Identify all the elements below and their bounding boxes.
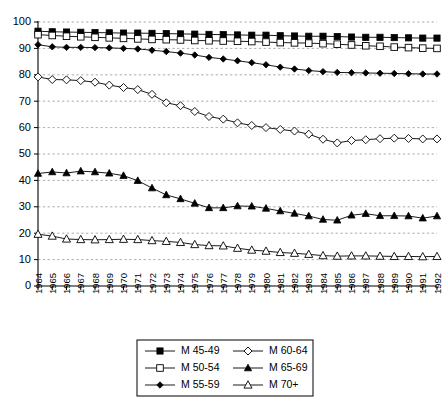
x-tick-label: 1976 <box>204 273 215 294</box>
data-point <box>263 62 269 68</box>
data-point <box>277 64 283 70</box>
data-point <box>63 44 69 50</box>
data-point <box>306 67 312 73</box>
x-tick-label: 1964 <box>33 273 44 294</box>
data-point <box>334 33 340 39</box>
data-point <box>106 35 113 42</box>
legend: M 45-49M 60-64M 50-54M 65-69M 55-59M 70+ <box>137 340 313 396</box>
data-point <box>244 381 252 388</box>
x-tick-label: 1967 <box>75 273 86 294</box>
data-point <box>191 37 198 44</box>
data-point <box>63 33 70 40</box>
data-point <box>248 38 255 45</box>
data-point <box>348 137 356 145</box>
data-point <box>405 35 411 41</box>
legend-label: M 70+ <box>269 378 298 390</box>
data-point <box>391 34 397 40</box>
data-point <box>434 71 440 77</box>
data-point <box>120 45 126 51</box>
data-point <box>433 252 441 259</box>
x-tick-label: 1989 <box>389 273 400 294</box>
data-point <box>177 50 183 56</box>
y-tick-label: 10 <box>19 253 31 265</box>
data-point <box>362 136 370 144</box>
data-point <box>148 184 155 191</box>
legend-item-m-55-59: M 55-59 <box>145 378 220 390</box>
data-point <box>134 36 141 43</box>
data-point <box>106 45 112 51</box>
data-point <box>263 39 270 46</box>
data-point <box>149 36 156 43</box>
data-point <box>78 44 84 50</box>
data-point <box>277 33 283 39</box>
y-tick-label: 50 <box>19 147 31 159</box>
x-tick-label: 1966 <box>61 273 72 294</box>
data-point <box>92 34 99 41</box>
data-point <box>163 48 169 54</box>
x-tick-label: 1986 <box>346 273 357 294</box>
x-tick-label: 1982 <box>289 273 300 294</box>
x-tick-label: 1969 <box>104 273 115 294</box>
data-point <box>248 202 255 209</box>
data-point <box>35 42 41 48</box>
data-point <box>205 113 213 121</box>
data-point <box>177 102 185 110</box>
data-point <box>220 32 226 38</box>
data-point <box>234 202 241 209</box>
data-point <box>263 32 269 38</box>
data-point <box>177 31 183 37</box>
x-tick-label: 1988 <box>375 273 386 294</box>
data-point <box>120 83 128 91</box>
data-point <box>249 32 255 38</box>
data-point <box>433 212 440 219</box>
y-axis-tick-labels: 0102030405060708090100 <box>13 15 31 291</box>
data-point <box>334 69 340 75</box>
data-point <box>92 44 98 50</box>
data-point <box>248 121 256 129</box>
y-tick-label: 70 <box>19 95 31 107</box>
data-point <box>262 124 270 132</box>
data-point <box>348 252 356 259</box>
y-tick-label: 20 <box>19 227 31 239</box>
data-point <box>134 235 142 242</box>
data-point <box>320 40 327 47</box>
data-point <box>77 77 85 85</box>
data-point <box>163 31 169 37</box>
data-point <box>305 130 313 138</box>
data-point <box>420 71 426 77</box>
y-tick-label: 100 <box>13 15 31 27</box>
legend-item-m-70: M 70+ <box>233 378 298 390</box>
data-point <box>434 35 440 41</box>
y-tick-label: 60 <box>19 121 31 133</box>
data-point <box>163 36 170 43</box>
data-point <box>91 236 99 243</box>
legend-label: M 45-49 <box>181 344 220 356</box>
data-point <box>405 252 413 259</box>
data-point <box>276 125 284 133</box>
legend-item-m-50-54: M 50-54 <box>145 361 220 373</box>
series-markers-m-70 <box>34 230 441 260</box>
data-point <box>177 37 184 44</box>
data-point <box>49 44 55 50</box>
data-point <box>249 59 255 65</box>
data-point <box>362 210 369 217</box>
data-point <box>206 37 213 44</box>
data-point <box>206 31 212 37</box>
y-tick-label: 40 <box>19 174 31 186</box>
data-point <box>434 45 441 52</box>
data-point <box>234 32 240 38</box>
data-point <box>34 73 42 81</box>
x-tick-label: 1987 <box>360 273 371 294</box>
data-point <box>305 40 312 47</box>
x-tick-label: 1971 <box>132 273 143 294</box>
x-tick-label: 1990 <box>403 273 414 294</box>
x-tick-label: 1984 <box>318 273 329 294</box>
series-markers-m-65-69 <box>34 167 440 223</box>
legend-label: M 65-69 <box>269 361 308 373</box>
data-point <box>348 34 354 40</box>
data-point <box>206 54 212 60</box>
data-point <box>390 134 398 142</box>
data-point <box>405 134 413 142</box>
data-point <box>192 31 198 37</box>
data-point <box>291 33 297 39</box>
